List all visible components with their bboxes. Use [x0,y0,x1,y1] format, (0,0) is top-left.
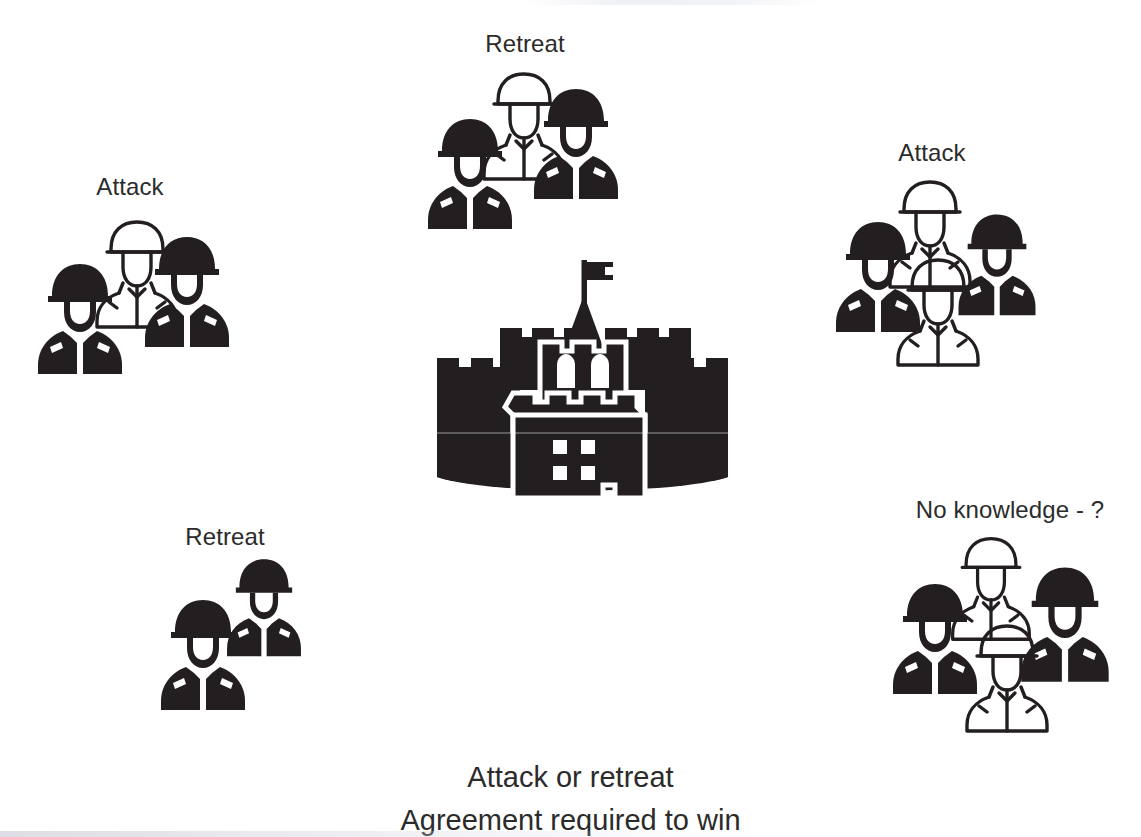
soldier-outline-icon [888,251,988,371]
soldier-filled-icon [420,112,520,232]
soldier-filled-icon [153,593,253,713]
group-label-bottom-right-unknown: No knowledge - ? [916,498,1104,522]
soldier-filled-icon [137,230,237,350]
army-group-left-attack: Attack [25,165,255,380]
army-group-bottom-right-unknown: No knowledge - ? [885,492,1135,722]
soldier-outline-icon [957,617,1057,737]
group-label-top-retreat: Retreat [485,32,564,56]
army-group-top-retreat: Retreat [420,20,650,220]
caption-line-1: Attack or retreat [0,755,1141,800]
scan-artifact-top [520,0,820,5]
caption-line-2: Agreement required to win [0,798,1141,837]
castle-fortress-icon [425,255,740,510]
soldier-filled-icon [30,257,130,377]
soldier-filled-icon [526,82,626,202]
army-group-right-attack: Attack [800,133,1065,368]
diagram-canvas: Retreat [0,0,1141,837]
group-label-right-attack: Attack [898,141,965,165]
group-label-bottom-left-retreat: Retreat [185,525,264,549]
group-label-left-attack: Attack [96,175,163,199]
army-group-bottom-left-retreat: Retreat [135,515,350,700]
